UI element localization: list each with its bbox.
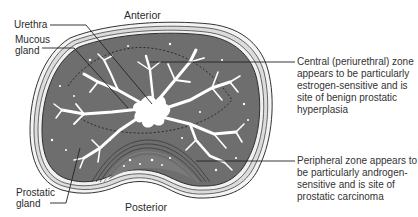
peripheral-zone-annotation: Peripheral zone appears to be particular…: [297, 155, 417, 203]
prostatic-gland-label: Prostatic gland: [16, 187, 55, 209]
mucous-gland-label: Mucous gland: [15, 34, 50, 56]
posterior-label: Posterior: [125, 202, 167, 213]
prostate-cross-section-figure: Anterior Posterior Urethra Mucous gland …: [0, 0, 418, 217]
urethra-label: Urethra: [14, 19, 47, 30]
central-zone-annotation: Central (periurethral) zone appears to b…: [297, 56, 414, 116]
anterior-label: Anterior: [124, 10, 161, 21]
